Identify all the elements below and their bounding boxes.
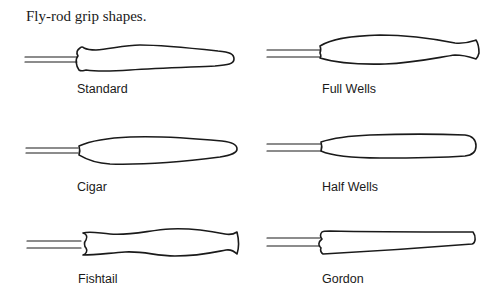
grip-label-gordon: Gordon (322, 272, 364, 286)
grip-label-standard: Standard (77, 82, 128, 96)
grip-standard-illustration (25, 45, 234, 71)
grip-label-fishtail: Fishtail (78, 272, 118, 286)
grip-fishtail-illustration (27, 229, 239, 256)
grip-label-full-wells: Full Wells (322, 82, 376, 96)
grip-full-wells-illustration (267, 35, 479, 64)
grip-cigar-illustration (26, 137, 237, 164)
grip-gordon-illustration (267, 231, 475, 254)
grip-diagram (0, 0, 504, 301)
grip-half-wells-illustration (267, 134, 476, 158)
grip-label-cigar: Cigar (77, 180, 107, 194)
grip-label-half-wells: Half Wells (322, 180, 378, 194)
